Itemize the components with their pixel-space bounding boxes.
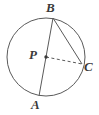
segment-radius-pc-dashed — [46, 57, 82, 64]
vertex-label-a: A — [31, 98, 40, 111]
circle-diagram-svg — [0, 0, 99, 115]
center-point-marker — [44, 55, 47, 58]
vertex-label-b: B — [46, 1, 55, 14]
center-label-p: P — [29, 48, 37, 61]
vertex-label-c: C — [84, 60, 93, 73]
geometry-figure: B A C P — [0, 0, 99, 115]
